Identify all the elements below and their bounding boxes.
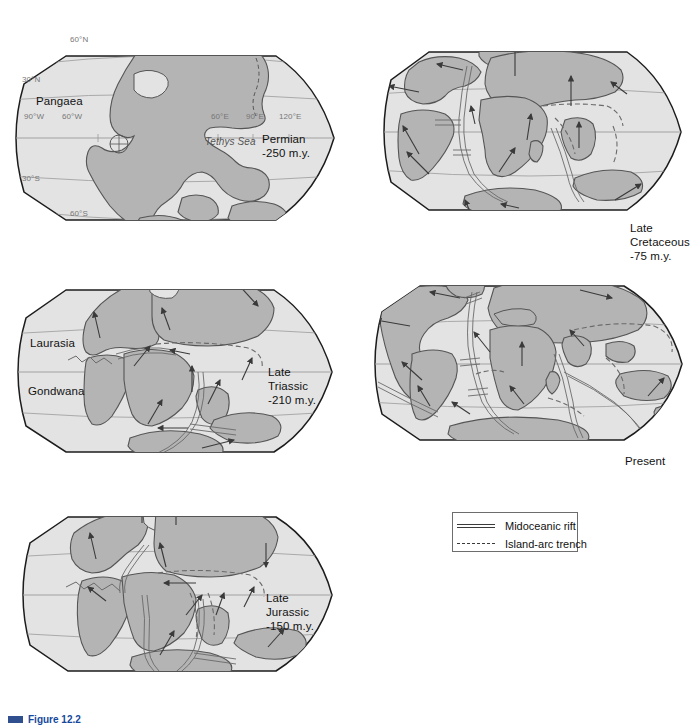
label-tethys-sea: Tethys Sea	[205, 135, 256, 149]
figure-caption: Figure 12.2	[8, 714, 81, 725]
caption-marker-icon	[8, 716, 23, 723]
label-gondwana: Gondwana	[28, 385, 84, 399]
graticule-label-90e: 90°E	[246, 110, 264, 124]
figure-continental-drift: Pangaea Tethys Sea Permian -250 m.y. 60°…	[0, 0, 691, 727]
graticule-label-60w: 60°W	[62, 110, 82, 124]
graticule-label-90w: 90°W	[24, 110, 44, 124]
map-present-graphic	[368, 262, 686, 472]
graticule-label-120e: 120°E	[279, 110, 301, 124]
map-present	[368, 262, 686, 472]
island-arc-trench-icon	[455, 539, 497, 549]
label-age-permian: -250 m.y.	[262, 147, 310, 161]
label-era-late-triassic: Late Triassic	[268, 366, 308, 393]
graticule-label-60n: 60°N	[70, 33, 88, 47]
caption-text: Figure 12.2	[28, 714, 81, 725]
graticule-label-30n: 30°N	[22, 73, 40, 87]
graticule-label-60s: 60°S	[70, 207, 88, 221]
legend-item-midoceanic-rift: Midoceanic rift	[455, 517, 576, 534]
graticule-label-30s: 30°S	[22, 172, 40, 186]
map-late-cretaceous-graphic	[375, 22, 685, 242]
label-age-late-triassic: -210 m.y.	[268, 394, 316, 408]
legend-label-island-arc-trench: Island-arc trench	[505, 538, 587, 550]
map-late-cretaceous	[375, 22, 685, 242]
midoceanic-rift-icon	[455, 521, 497, 531]
legend-item-island-arc-trench: Island-arc trench	[455, 535, 587, 552]
legend-label-midoceanic-rift: Midoceanic rift	[505, 520, 576, 532]
label-era-late-jurassic: Late Jurassic	[266, 592, 309, 619]
graticule-label-60e: 60°E	[211, 110, 229, 124]
label-era-permian: Permian	[262, 133, 306, 147]
label-age-late-jurassic: -150 m.y.	[266, 620, 314, 634]
label-laurasia: Laurasia	[30, 337, 75, 351]
label-era-late-cretaceous: Late Cretaceous	[630, 222, 690, 249]
label-pangaea: Pangaea	[36, 95, 83, 109]
label-era-present: Present	[625, 455, 665, 469]
